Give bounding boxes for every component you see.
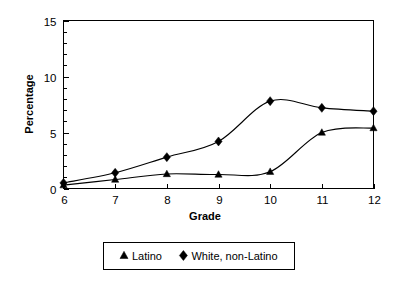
legend-items: LatinoWhite, non-Latino [120,250,278,262]
y-tick-label: 15 [44,16,57,28]
y-tick-label: 0 [50,184,56,196]
series-1 [60,124,377,188]
x-tick-label: 11 [317,194,329,206]
data-point-marker [267,168,274,175]
data-series-layer [60,97,377,188]
y-axis-ticks [64,22,69,190]
legend-entry-2: White, non-Latino [179,250,277,262]
x-tick-label: 10 [264,194,277,206]
x-tick-label: 12 [368,194,381,206]
data-point-marker [370,107,377,116]
data-point-marker [318,103,325,112]
x-axis-tick-labels: 6789101112 [61,194,381,206]
plot-area-border [64,21,374,189]
line-chart: 051015 6789101112 Percentage Grade Latin… [0,0,398,288]
y-tick-label: 10 [44,72,57,84]
y-axis-title: Percentage [23,74,35,133]
x-tick-label: 6 [61,194,67,206]
chart-figure: 051015 6789101112 Percentage Grade Latin… [0,0,398,288]
legend-label: Latino [132,250,162,262]
chart-legend: LatinoWhite, non-Latino [104,243,295,270]
data-point-marker [267,97,274,106]
x-axis-ticks [65,184,375,189]
data-point-marker [112,168,119,177]
x-tick-label: 9 [216,194,222,206]
y-tick-label: 5 [50,128,56,140]
x-tick-label: 7 [112,194,118,206]
data-point-marker [163,153,170,162]
legend-label: White, non-Latino [191,250,277,262]
x-axis-title: Grade [189,210,221,222]
x-tick-label: 8 [164,194,170,206]
data-point-marker [370,124,377,131]
y-axis-tick-labels: 051015 [44,16,57,196]
data-point-marker [215,137,222,146]
